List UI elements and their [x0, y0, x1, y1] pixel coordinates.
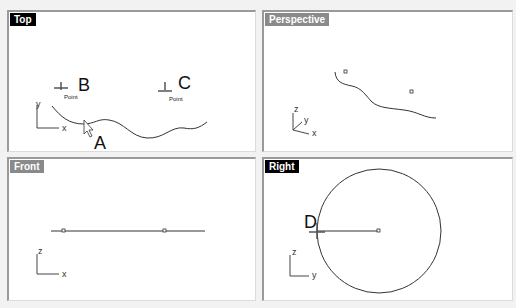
point-label-d: D [304, 213, 317, 231]
point-b-marker [54, 82, 68, 90]
top-geometry [9, 12, 258, 154]
right-geometry [264, 159, 515, 303]
axis-label-y: y [36, 100, 41, 109]
viewport-perspective[interactable]: Perspective z y x [262, 10, 513, 152]
axis-label-x: x [62, 270, 67, 279]
point-tag-b: Point [64, 94, 78, 100]
axis-label-x: x [62, 124, 67, 133]
cursor-label-a: A [94, 134, 106, 152]
point-c-marker [158, 82, 172, 91]
axis-label-y: y [304, 116, 309, 125]
point-tag-c: Point [169, 96, 183, 102]
viewport-right[interactable]: Right D z y [262, 157, 513, 301]
point-label-b: B [78, 76, 90, 94]
point-label-c: C [178, 74, 191, 92]
axis-label-x: x [312, 129, 317, 138]
perspective-geometry [264, 12, 515, 154]
axis-label-z: z [38, 247, 43, 256]
viewport-front[interactable]: Front z x [7, 157, 256, 301]
axis-label-y: y [312, 271, 317, 280]
axis-label-z: z [292, 248, 297, 257]
axis-label-z: z [294, 105, 299, 114]
front-geometry [9, 159, 258, 303]
viewport-top[interactable]: Top y x B Point C Point A [7, 10, 256, 152]
